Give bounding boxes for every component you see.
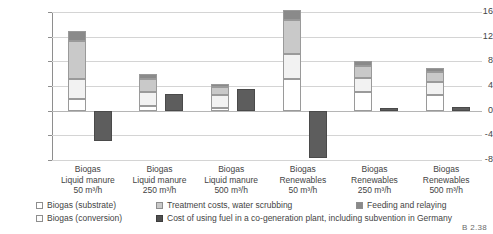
bar-segment-fuel [165, 94, 183, 111]
bar-segment-treatment-costs-water-scrubbing [283, 20, 301, 54]
legend-swatch-feeding [356, 202, 363, 209]
x-axis-label: BiogasRenewables250 m³/h [339, 164, 411, 196]
x-axis-label-line: 250 m³/h [339, 185, 411, 196]
x-axis-label: BiogasLiquid manure250 m³/h [124, 164, 196, 196]
legend-label-conversion: Biogas (conversion) [47, 213, 122, 224]
bar-segment-feeding-and-relaying [68, 31, 86, 41]
bar-segment-biogas-substrate [283, 79, 301, 110]
bar-segment-treatment-costs-water-scrubbing [139, 79, 157, 92]
x-axis-label-line: 500 m³/h [195, 185, 267, 196]
legend-swatch-fuel [156, 215, 163, 222]
x-axis-label-line: Renewables [410, 175, 482, 186]
bar-segment-feeding-and-relaying [354, 61, 372, 67]
legend-label-substrate: Biogas (substrate) [47, 200, 116, 211]
legend-item-conversion: Biogas (conversion) [36, 213, 122, 224]
plot-area [52, 12, 482, 160]
legend-swatch-conversion [36, 215, 43, 222]
x-axis-label-line: Renewables [339, 175, 411, 186]
chart-legend: Biogas (substrate)Biogas (conversion)Tre… [36, 200, 488, 226]
x-axis-label-line: Biogas [195, 164, 267, 175]
x-axis-label-line: Biogas [410, 164, 482, 175]
x-axis-label-line: 250 m³/h [124, 185, 196, 196]
x-axis-label-line: 50 m³/h [267, 185, 339, 196]
bar-segment-biogas-substrate [211, 108, 229, 111]
bar-segment-treatment-costs-water-scrubbing [68, 41, 86, 79]
gridline [52, 160, 482, 161]
x-axis-label-line: Renewables [267, 175, 339, 186]
bar-group [124, 12, 196, 160]
bar-segment-biogas-conversion [68, 79, 86, 99]
bar-segment-fuel [94, 111, 112, 142]
legend-swatch-treatment [156, 202, 163, 209]
x-axis-label-line: Biogas [124, 164, 196, 175]
bar-group [267, 12, 339, 160]
x-axis-labels: BiogasLiquid manure50 m³/hBiogasLiquid m… [52, 164, 482, 198]
bar-group [52, 12, 124, 160]
y-axis-title-container: Production costs [ct/kWh] [0, 0, 16, 172]
bar-segment-feeding-and-relaying [139, 74, 157, 79]
x-axis-label-line: 500 m³/h [410, 185, 482, 196]
x-axis-label-line: 50 m³/h [52, 185, 124, 196]
x-axis-label-line: Liquid manure [124, 175, 196, 186]
bar-segment-fuel [309, 111, 327, 158]
x-axis-label: BiogasRenewables50 m³/h [267, 164, 339, 196]
x-axis-label-line: Liquid manure [52, 175, 124, 186]
legend-label-fuel: Cost of using fuel in a co-generation pl… [167, 213, 452, 224]
bar-segment-feeding-and-relaying [283, 10, 301, 20]
x-axis-label: BiogasLiquid manure50 m³/h [52, 164, 124, 196]
x-axis-label-line: Liquid manure [195, 175, 267, 186]
x-axis-label: BiogasRenewables500 m³/h [410, 164, 482, 196]
bar-segment-feeding-and-relaying [211, 84, 229, 87]
x-axis-label: BiogasLiquid manure500 m³/h [195, 164, 267, 196]
figure-code: B 2.38 [462, 223, 487, 232]
bar-segment-fuel [452, 107, 470, 111]
x-axis-label-line: Biogas [267, 164, 339, 175]
x-axis-label-line: Biogas [52, 164, 124, 175]
bar-segment-biogas-conversion [139, 92, 157, 107]
bar-segment-treatment-costs-water-scrubbing [354, 66, 372, 78]
bar-group [339, 12, 411, 160]
bar-segment-biogas-substrate [426, 95, 444, 111]
legend-item-substrate: Biogas (substrate) [36, 200, 116, 211]
bar-segment-biogas-conversion [211, 95, 229, 108]
bar-segment-biogas-conversion [426, 82, 444, 94]
x-axis-label-line: Biogas [339, 164, 411, 175]
legend-item-fuel: Cost of using fuel in a co-generation pl… [156, 213, 452, 224]
chart-figure: Production costs [ct/kWh] 1612840-4-8 Bi… [0, 0, 493, 234]
bar-segment-biogas-conversion [354, 78, 372, 92]
bar-segment-biogas-substrate [354, 92, 372, 111]
bar-group [410, 12, 482, 160]
bar-segment-biogas-substrate [139, 106, 157, 110]
bar-group [195, 12, 267, 160]
bar-segment-fuel [237, 89, 255, 111]
bar-segment-feeding-and-relaying [426, 68, 444, 73]
bar-segment-fuel [380, 108, 398, 110]
legend-label-feeding: Feeding and relaying [367, 200, 446, 211]
legend-swatch-substrate [36, 202, 43, 209]
bar-segment-treatment-costs-water-scrubbing [426, 72, 444, 82]
bar-segment-biogas-substrate [68, 99, 86, 111]
legend-item-feeding: Feeding and relaying [356, 200, 446, 211]
bar-segment-treatment-costs-water-scrubbing [211, 87, 229, 94]
legend-item-treatment: Treatment costs, water scrubbing [156, 200, 292, 211]
bar-segment-biogas-conversion [283, 54, 301, 79]
legend-label-treatment: Treatment costs, water scrubbing [167, 200, 292, 211]
